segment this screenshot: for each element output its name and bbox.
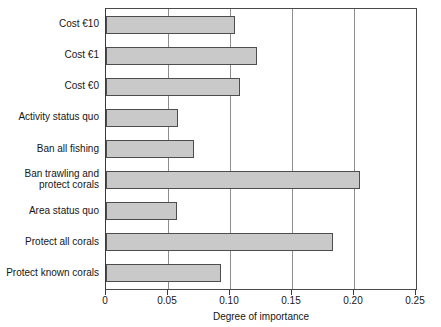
x-tick-label: 0 (102, 295, 108, 307)
plot-area (105, 8, 417, 290)
category-label: Protect all corals (0, 236, 99, 247)
bar (106, 47, 257, 65)
category-label: Activity status quo (0, 111, 99, 122)
bar (106, 233, 333, 251)
bar (106, 171, 360, 189)
gridline (354, 9, 355, 289)
category-label: Cost €10 (0, 18, 99, 29)
category-label: Cost €0 (0, 80, 99, 91)
x-axis-tick-labels: 00.050.100.150.200.25 (105, 295, 417, 309)
category-label: Area status quo (0, 205, 99, 216)
category-label-column: Cost €10Cost €1Cost €0Activity status qu… (0, 8, 103, 290)
x-tick-label: 0.10 (219, 295, 238, 307)
bar (106, 16, 235, 34)
bar (106, 78, 240, 96)
category-label: Cost €1 (0, 49, 99, 60)
x-tick-label: 0.15 (281, 295, 300, 307)
bar (106, 109, 178, 127)
x-axis-title: Degree of importance (105, 310, 417, 323)
x-tick-label: 0.25 (405, 295, 424, 307)
x-tick-label: 0.20 (343, 295, 362, 307)
category-label: Protect known corals (0, 267, 99, 278)
bar (106, 140, 194, 158)
bar (106, 264, 221, 282)
category-label: Ban trawling and protect corals (0, 168, 99, 190)
category-label: Ban all fishing (0, 143, 99, 154)
bar (106, 202, 177, 220)
bar-chart: Cost €10Cost €1Cost €0Activity status qu… (0, 0, 441, 327)
x-tick-label: 0.05 (157, 295, 176, 307)
